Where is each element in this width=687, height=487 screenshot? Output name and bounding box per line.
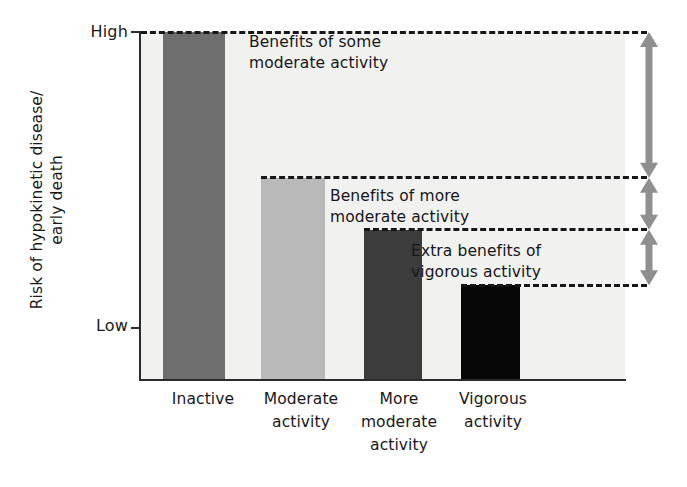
arrow-some-moderate [640,32,658,178]
benefit-arrows-group [636,0,662,487]
x-label-moderate-activity: Moderate activity [246,388,356,434]
reference-line-vigorous [461,284,647,287]
reference-line-more-moderate [364,228,647,231]
benefit-arrows-svg [636,0,662,487]
bar-vigorous-activity [461,285,520,379]
bar-inactive [163,32,225,379]
annotation-benefits-some-moderate-activity: Benefits of some moderate activity [249,32,388,74]
y-tick-mark-low [131,327,140,329]
y-tick-mark-high [131,31,140,33]
x-axis-line [139,379,626,381]
x-label-vigorous-activity: Vigorous activity [441,388,545,434]
x-label-inactive: Inactive [153,388,253,411]
arrow-more-moderate [640,178,658,230]
y-tick-label-high: High [48,22,128,41]
reference-line-high [141,31,647,34]
x-label-more-moderate-activity: More moderate activity [346,388,452,457]
y-tick-label-low: Low [48,316,128,335]
annotation-extra-benefits-vigorous-activity: Extra benefits of vigorous activity [411,241,541,283]
bar-chart-figure: Risk of hypokinetic disease/ early death… [0,0,687,487]
arrow-vigorous [640,230,658,286]
reference-line-moderate [261,176,647,179]
x-axis-category-labels: Inactive Moderate activity More moderate… [141,388,541,478]
annotation-benefits-more-moderate-activity: Benefits of more moderate activity [330,186,469,228]
bar-moderate-activity [261,178,325,379]
